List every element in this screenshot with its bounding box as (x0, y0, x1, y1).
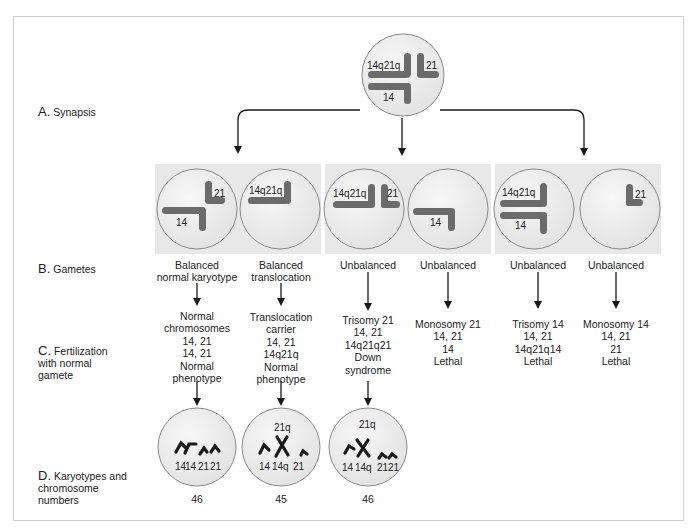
label-14q21q: 14q21q (367, 60, 400, 71)
label-21: 21 (635, 189, 647, 200)
karyo-label: 21 (388, 462, 400, 473)
karyo-label: 14q (272, 461, 289, 472)
chromosome-number-45: 45 (266, 493, 296, 505)
karyo-label: 14q (355, 462, 372, 473)
label-21: 21 (214, 188, 226, 199)
caption-line: Balanced (236, 259, 326, 271)
result-line: Normal (231, 361, 331, 373)
label-21: 21 (426, 60, 438, 71)
label-14q21q: 14q21q (502, 187, 535, 198)
result-translocation-carrier: Translocation carrier 14, 21 14q21q Norm… (231, 311, 331, 385)
result-line: Translocation (231, 311, 331, 323)
result-line: 14, 21 (398, 330, 498, 342)
label-14q21q: 14q21q (333, 188, 366, 199)
caption-line: Unbalanced (571, 259, 661, 271)
label-14: 14 (176, 217, 188, 228)
karyo-label: 14 (342, 462, 354, 473)
caption-line: Unbalanced (323, 259, 413, 271)
gamete-cell-4 (408, 169, 488, 249)
result-monosomy-14: Monosomy 14 14, 21 21 Lethal (566, 318, 666, 368)
karyotype-cell-1 (158, 408, 236, 486)
gamete-cell-6 (580, 169, 660, 249)
karyo-label: 14 (259, 461, 271, 472)
label-14q21q: 14q21q (249, 185, 282, 196)
label-14: 14 (515, 220, 527, 231)
label-21: 21 (387, 188, 399, 199)
gamete-caption-2: Balanced translocation (236, 259, 326, 283)
karyo-label: 14 (185, 461, 197, 472)
gamete-cell-3 (324, 169, 404, 249)
result-line: phenotype (231, 373, 331, 385)
caption-line: Balanced (152, 259, 242, 271)
gamete-cell-1 (157, 169, 237, 249)
karyotype-cell-2 (242, 408, 320, 486)
gamete-caption-5: Unbalanced (493, 259, 583, 271)
karyo-label: 21 (198, 461, 210, 472)
gamete-caption-4: Unbalanced (403, 259, 493, 271)
karyo-label: 21 (377, 462, 389, 473)
branch-arrows (238, 110, 584, 152)
chromosome-number-46: 46 (182, 493, 212, 505)
synapsis-cell (362, 34, 444, 116)
result-monosomy-21: Monosomy 21 14, 21 14 Lethal (398, 318, 498, 368)
caption-line: Unbalanced (403, 259, 493, 271)
result-line: Monosomy 14 (566, 318, 666, 330)
karyo-top-label: 21q (274, 422, 291, 433)
result-line: 14 (398, 343, 498, 355)
chromosome-number-46: 46 (353, 493, 383, 505)
result-line: Monosomy 21 (398, 318, 498, 330)
gamete-caption-1: Balanced normal karyotype (152, 259, 242, 283)
caption-line: translocation (236, 271, 326, 283)
result-line: 14q21q (231, 348, 331, 360)
label-14: 14 (383, 92, 395, 103)
gamete-caption-3: Unbalanced (323, 259, 413, 271)
result-line: 21 (566, 343, 666, 355)
caption-line: normal karyotype (152, 271, 242, 283)
result-line: 14, 21 (231, 336, 331, 348)
caption-line: Unbalanced (493, 259, 583, 271)
gamete-caption-6: Unbalanced (571, 259, 661, 271)
label-14: 14 (430, 217, 442, 228)
gamete-cell-5 (494, 169, 574, 249)
karyo-label: 21 (293, 461, 305, 472)
karyo-top-label: 21q (359, 419, 376, 430)
result-line: 14, 21 (566, 330, 666, 342)
result-line: carrier (231, 323, 331, 335)
gamete-cell-2 (240, 169, 320, 249)
result-line: Lethal (398, 355, 498, 367)
result-line: Lethal (566, 355, 666, 367)
karyo-label: 21 (210, 461, 222, 472)
